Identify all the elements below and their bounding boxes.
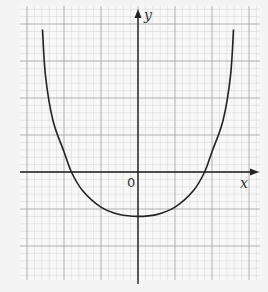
y-axis-label: y xyxy=(143,7,153,23)
origin-label: 0 xyxy=(127,175,135,190)
graph-chart: y x 0 xyxy=(0,0,268,292)
x-axis-label: x xyxy=(240,175,248,191)
